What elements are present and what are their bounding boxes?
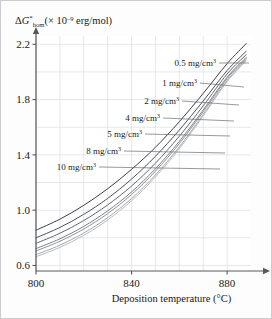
curve-annotation-label: 4 mg/cm3 bbox=[125, 113, 160, 123]
plot-background bbox=[36, 36, 251, 271]
curve-annotation-label: 1 mg/cm3 bbox=[162, 78, 197, 88]
x-axis-title: Deposition temperature (°C) bbox=[112, 293, 232, 305]
curve-annotation-label: 2 mg/cm3 bbox=[144, 96, 179, 106]
x-tick-label: 880 bbox=[219, 277, 236, 289]
figure-container: 0.61.01.41.82.2800840880 0.5 mg/cm31 mg/… bbox=[0, 0, 272, 319]
y-axis-arrowhead bbox=[33, 27, 39, 34]
curve-annotation-label: 8 mg/cm3 bbox=[86, 146, 121, 156]
y-axis-title: ΔG*hom(× 10–9 erg/mol) bbox=[15, 14, 113, 28]
y-tick-label: 2.2 bbox=[16, 38, 30, 50]
x-axis-arrowhead bbox=[263, 268, 270, 274]
x-tick-label: 800 bbox=[28, 277, 45, 289]
y-tick-label: 1.4 bbox=[16, 149, 30, 161]
grid-layer bbox=[36, 36, 251, 271]
y-tick-label: 0.6 bbox=[16, 259, 30, 271]
curve-annotation-label: 10 mg/cm3 bbox=[57, 162, 96, 172]
y-tick-label: 1.8 bbox=[16, 93, 30, 105]
y-tick-label: 1.0 bbox=[16, 204, 30, 216]
chart-canvas: 0.61.01.41.82.2800840880 0.5 mg/cm31 mg/… bbox=[1, 1, 272, 319]
x-tick-label: 840 bbox=[123, 277, 140, 289]
curve-annotation-label: 5 mg/cm3 bbox=[107, 129, 142, 139]
curve-annotation-label: 0.5 mg/cm3 bbox=[175, 58, 217, 68]
